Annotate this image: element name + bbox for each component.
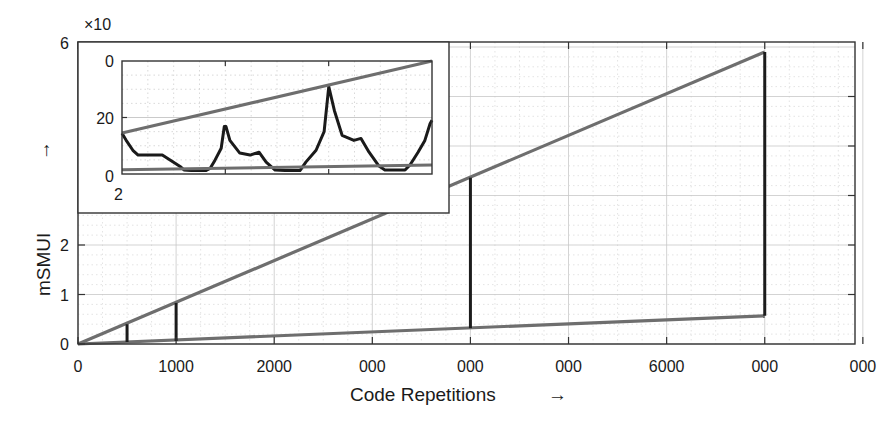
x-tick-label: 000 [457,358,484,375]
y-tick-label: 1 [60,287,69,304]
inset-x-start-label: 2 [114,186,123,203]
inset-panel: 0200 ×10 2 [78,16,449,213]
y-tick-label: 6 [60,35,69,52]
chart: 0100020000000000006000000000 0126 0200 ×… [0,0,894,424]
x-tick-label: 0 [74,358,83,375]
y-tick-label: 0 [60,336,69,353]
inset-exponent-label: ×10 [84,16,111,33]
inset-outer-box [78,42,449,213]
x-tick-label: 1000 [158,358,194,375]
x-tick-label: 000 [359,358,386,375]
y-axis-arrow: → [33,141,54,160]
x-tick-label: 6000 [649,358,685,375]
inset-y-tick-label: 0 [105,53,114,70]
x-tick-label: 000 [751,358,778,375]
y-tick-label: 2 [60,237,69,254]
y-axis-label: mSMUI [33,233,54,296]
inset-y-tick-label: 20 [96,110,114,127]
x-axis-label: Code Repetitions [350,384,496,405]
inset-y-tick-label: 0 [105,168,114,185]
x-tick-label: 2000 [256,358,292,375]
x-tick-label: 000 [555,358,582,375]
x-tick-label: 000 [849,358,876,375]
x-axis-arrow: → [548,384,567,405]
